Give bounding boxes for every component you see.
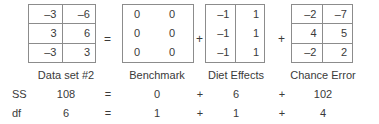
matrix-row: 0 0 bbox=[123, 5, 193, 24]
ss-value-total: 108 bbox=[28, 85, 104, 104]
matrix-data-set-2: –3 –6 3 6 –3 3 bbox=[28, 4, 96, 63]
matrix-cell: –3 bbox=[29, 44, 62, 62]
stats-row-ss: SS 108 = 0 + 6 + 102 bbox=[0, 85, 379, 104]
matrix-row: –1 1 bbox=[206, 43, 264, 62]
label-data-set-2: Data set #2 bbox=[28, 66, 104, 85]
stats-row-df: df 6 = 1 + 1 + 4 bbox=[0, 104, 379, 123]
ss-value-benchmark: 0 bbox=[118, 85, 196, 104]
matrix-cell: –1 bbox=[206, 43, 235, 62]
matrix-cell: –7 bbox=[322, 5, 353, 23]
plus-operator: + bbox=[196, 33, 203, 45]
matrix-cell: –2 bbox=[292, 5, 322, 23]
df-value-diet-effects: 1 bbox=[203, 104, 269, 123]
matrix-row: –3 3 bbox=[29, 43, 95, 62]
matrix-benchmark: 0 0 0 0 0 0 bbox=[122, 4, 194, 63]
matrix-labels-row: Data set #2 Benchmark Diet Effects Chanc… bbox=[0, 66, 379, 85]
plus-operator: + bbox=[278, 33, 285, 45]
matrix-chance-error: –2 –7 4 5 –2 2 bbox=[291, 4, 353, 63]
matrix-cell: –3 bbox=[29, 5, 62, 23]
matrix-cell: 0 bbox=[158, 43, 193, 62]
equals-operator: = bbox=[98, 104, 118, 123]
matrix-row: 0 0 bbox=[123, 43, 193, 62]
df-value-total: 6 bbox=[28, 104, 104, 123]
matrix-row: –1 1 bbox=[206, 24, 264, 43]
matrix-cell: 0 bbox=[158, 5, 193, 24]
matrix-diet-effects: –1 1 –1 1 –1 1 bbox=[205, 4, 265, 63]
matrix-row: –3 –6 3 6 –3 3 = 0 0 0 0 bbox=[0, 4, 379, 65]
matrix-cell: –6 bbox=[62, 5, 96, 23]
matrix-cell: 1 bbox=[235, 24, 265, 43]
matrix-row: –2 2 bbox=[292, 43, 352, 62]
matrix-row: –3 –6 bbox=[29, 5, 95, 23]
matrix-cell: –1 bbox=[206, 5, 235, 24]
matrix-row: 3 6 bbox=[29, 23, 95, 42]
stats-table: Data set #2 Benchmark Diet Effects Chanc… bbox=[0, 66, 379, 124]
ss-value-chance-error: 102 bbox=[286, 85, 360, 104]
matrix-cell: 5 bbox=[322, 24, 353, 42]
matrix-cell: 1 bbox=[235, 43, 265, 62]
matrix-cell: 3 bbox=[62, 44, 96, 62]
matrix-cell: 2 bbox=[322, 44, 353, 62]
label-chance-error: Chance Error bbox=[286, 66, 360, 85]
label-benchmark: Benchmark bbox=[118, 66, 196, 85]
equals-operator: = bbox=[104, 33, 111, 45]
matrix-cell: 3 bbox=[29, 24, 62, 42]
matrix-cell: 4 bbox=[292, 24, 322, 42]
matrix-cell: 0 bbox=[158, 24, 193, 43]
df-value-chance-error: 4 bbox=[286, 104, 360, 123]
matrix-cell: 0 bbox=[123, 43, 158, 62]
matrix-cell: –1 bbox=[206, 24, 235, 43]
matrix-row: 4 5 bbox=[292, 23, 352, 42]
label-diet-effects: Diet Effects bbox=[203, 66, 269, 85]
matrix-cell: 6 bbox=[62, 24, 96, 42]
df-value-benchmark: 1 bbox=[118, 104, 196, 123]
matrix-cell: 0 bbox=[123, 24, 158, 43]
matrix-cell: 0 bbox=[123, 5, 158, 24]
matrix-cell: –2 bbox=[292, 44, 322, 62]
matrix-row: –1 1 bbox=[206, 5, 264, 24]
ss-value-diet-effects: 6 bbox=[203, 85, 269, 104]
matrix-row: –2 –7 bbox=[292, 5, 352, 23]
equals-operator: = bbox=[98, 85, 118, 104]
figure-canvas: –3 –6 3 6 –3 3 = 0 0 0 0 bbox=[0, 0, 379, 124]
matrix-row: 0 0 bbox=[123, 24, 193, 43]
matrix-cell: 1 bbox=[235, 5, 265, 24]
